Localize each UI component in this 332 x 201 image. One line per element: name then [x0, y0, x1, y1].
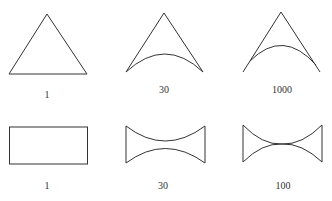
rectangle-panel-1: 1 [10, 127, 88, 191]
panel-label: 100 [276, 180, 291, 191]
triangle-panel-30: 30 [126, 13, 203, 95]
bowtie-shape [243, 125, 322, 162]
triangle-shape [9, 14, 87, 74]
triangle-panel-1: 1 [9, 14, 87, 100]
rectangle-panel-30: 30 [126, 126, 205, 191]
curved-triangle-arc [250, 45, 316, 65]
curved-triangle-side [243, 12, 281, 72]
curved-triangle-shape [126, 13, 203, 72]
rectangle-panel-100: 100 [243, 125, 322, 191]
panel-label: 1 [45, 180, 50, 191]
panel-label: 30 [159, 84, 169, 95]
panel-label: 1 [45, 89, 50, 100]
bowtie-shape [126, 126, 205, 163]
panel-label: 1000 [272, 84, 292, 95]
shape-evolution-diagram: 1 30 1000 1 30 100 [0, 0, 332, 201]
triangle-panel-1000: 1000 [243, 12, 320, 95]
panel-label: 30 [158, 180, 168, 191]
rectangle-shape [10, 127, 88, 164]
